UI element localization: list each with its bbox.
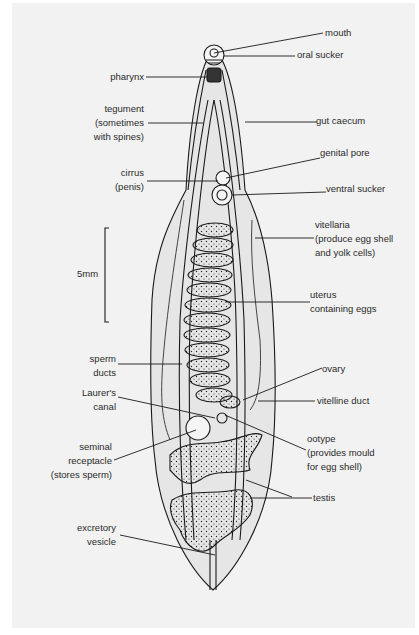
pharynx [207, 68, 221, 82]
scale-bar [105, 228, 109, 322]
label-pharynx: pharynx [80, 70, 144, 84]
ovary [220, 396, 240, 408]
scale-bar-label: 5mm [77, 267, 98, 281]
label-ventral-sucker: ventral sucker [326, 182, 385, 196]
label-testis: testis [313, 491, 335, 505]
label-gut-caecum: gut caecum [316, 114, 365, 128]
label-excretory-vesicle: excretoryvesicle [50, 521, 116, 549]
label-tegument: tegument(sometimeswith spines) [70, 102, 144, 144]
seminal-receptacle [186, 416, 210, 440]
label-vitelline-duct: vitelline duct [317, 394, 369, 408]
label-sperm-ducts: spermducts [70, 352, 116, 380]
oral-sucker [204, 45, 224, 65]
label-mouth: mouth [325, 26, 351, 40]
label-seminal-receptacle: seminalreceptacle(stores sperm) [30, 440, 112, 482]
label-uterus: uteruscontaining eggs [310, 288, 377, 316]
label-cirrus: cirrus(penis) [90, 166, 144, 194]
label-ootype: ootype(provides mouldfor egg shell) [307, 432, 375, 474]
label-vitellaria: vitellaria(produce egg shelland yolk cel… [315, 218, 393, 260]
label-ovary: ovary [322, 362, 345, 376]
label-oral-sucker: oral sucker [297, 48, 343, 62]
label-laurers-canal: Laurer'scanal [60, 386, 116, 414]
ventral-sucker [212, 185, 232, 205]
label-genital-pore: genital pore [320, 146, 370, 160]
